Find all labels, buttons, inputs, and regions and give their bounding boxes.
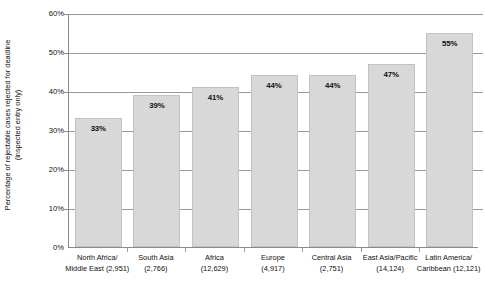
y-tick-mark-right bbox=[478, 53, 483, 54]
y-axis-title-line-2: (inspected entry only) bbox=[13, 40, 23, 211]
y-tick-label: 0% bbox=[34, 244, 64, 252]
y-axis-title: Percentage of rejectable cases rejected … bbox=[0, 0, 26, 250]
bar-value-label: 41% bbox=[193, 93, 238, 102]
bar-value-label: 39% bbox=[134, 101, 179, 110]
y-tick-mark bbox=[64, 53, 68, 54]
y-tick-mark-right bbox=[478, 92, 483, 93]
x-tick-mark bbox=[361, 248, 362, 252]
bar-chart: Percentage of rejectable cases rejected … bbox=[0, 0, 485, 294]
y-tick-label: 20% bbox=[34, 166, 64, 174]
y-tick-mark bbox=[64, 92, 68, 93]
x-tick-mark bbox=[244, 248, 245, 252]
y-axis-title-line-1: Percentage of rejectable cases rejected … bbox=[3, 40, 13, 211]
bar-value-label: 44% bbox=[252, 81, 297, 90]
bar-value-label: 55% bbox=[427, 39, 472, 48]
plot-area: 33%39%41%44%44%47%55% bbox=[68, 14, 478, 248]
y-tick-mark bbox=[64, 131, 68, 132]
x-tick-label-line: Caribbean (12,121) bbox=[413, 264, 484, 275]
y-tick-label: 60% bbox=[34, 10, 64, 18]
bar[interactable]: 44% bbox=[309, 75, 356, 247]
y-tick-label: 10% bbox=[34, 205, 64, 213]
bar-value-label: 44% bbox=[310, 81, 355, 90]
bar[interactable]: 55% bbox=[426, 33, 473, 248]
bars-group: 33%39%41%44%44%47%55% bbox=[69, 14, 478, 247]
bar[interactable]: 47% bbox=[368, 64, 415, 247]
y-tick-label: 50% bbox=[34, 49, 64, 57]
x-tick-mark bbox=[419, 248, 420, 252]
bar[interactable]: 39% bbox=[133, 95, 180, 247]
y-tick-mark bbox=[64, 14, 68, 15]
y-tick-label: 40% bbox=[34, 88, 64, 96]
bar[interactable]: 44% bbox=[251, 75, 298, 247]
x-tick-label: Latin America/Caribbean (12,121) bbox=[413, 253, 484, 274]
y-tick-mark-right bbox=[478, 170, 483, 171]
y-tick-mark-right bbox=[478, 14, 483, 15]
x-tick-mark bbox=[127, 248, 128, 252]
y-tick-mark-right bbox=[478, 209, 483, 210]
y-tick-label: 30% bbox=[34, 127, 64, 135]
y-axis-tick-labels: 0%10%20%30%40%50%60% bbox=[30, 0, 64, 294]
x-tick-label-line: Latin America/ bbox=[413, 253, 484, 264]
bar[interactable]: 41% bbox=[192, 87, 239, 247]
bar-value-label: 33% bbox=[76, 124, 121, 133]
y-tick-mark bbox=[64, 170, 68, 171]
bar[interactable]: 33% bbox=[75, 118, 122, 247]
bar-value-label: 47% bbox=[369, 70, 414, 79]
y-tick-mark-right bbox=[478, 131, 483, 132]
y-tick-mark bbox=[64, 209, 68, 210]
x-axis-tick-labels: North Africa/Middle East (2,951)South As… bbox=[68, 253, 478, 293]
x-tick-mark bbox=[185, 248, 186, 252]
x-tick-mark bbox=[302, 248, 303, 252]
